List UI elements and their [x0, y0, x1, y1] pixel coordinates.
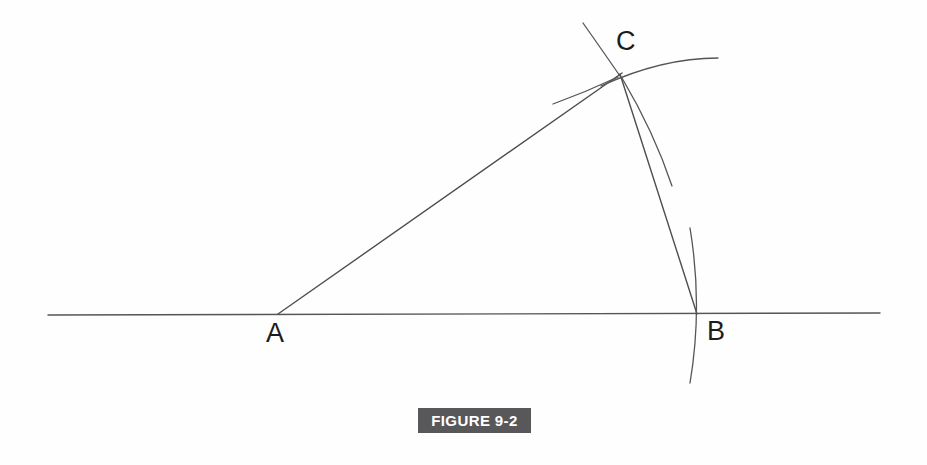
arc-through-c-upper-right	[601, 58, 718, 86]
segment-ac	[278, 73, 622, 314]
horizontal-baseline	[48, 313, 880, 315]
point-label-c: C	[616, 28, 636, 55]
arc-below-c	[622, 78, 672, 186]
geometric-construction-diagram	[0, 0, 927, 465]
arc-left-of-c	[553, 77, 618, 104]
figure-container: A B C FIGURE 9-2	[0, 0, 927, 465]
figure-caption-banner: FIGURE 9-2	[418, 408, 531, 433]
segment-cb	[620, 74, 697, 314]
point-label-b: B	[707, 318, 725, 345]
arc-through-b	[690, 228, 697, 383]
arc-above-c	[583, 23, 620, 76]
figure-caption-text: FIGURE 9-2	[431, 413, 518, 428]
point-label-a: A	[266, 320, 284, 347]
